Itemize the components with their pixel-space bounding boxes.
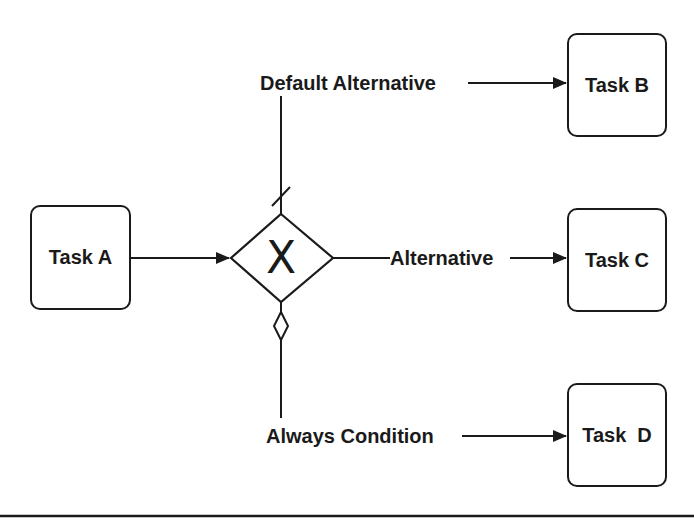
task-c-label: Task C [585,249,649,272]
task-d-box[interactable]: Task D [567,383,667,487]
task-b-box[interactable]: Task B [567,33,667,137]
flow-label-default-alternative: Default Alternative [260,71,436,95]
task-a-label: Task A [49,246,112,269]
exclusive-gateway-x-icon: X [259,236,303,280]
task-c-box[interactable]: Task C [567,208,667,312]
task-b-label: Task B [585,74,649,97]
conditional-diamond-icon [274,312,288,340]
flow-label-alternative: Alternative [390,246,493,270]
flow-label-always-condition: Always Condition [266,424,434,448]
task-d-label: Task D [582,424,652,447]
task-a-box[interactable]: Task A [30,205,131,310]
